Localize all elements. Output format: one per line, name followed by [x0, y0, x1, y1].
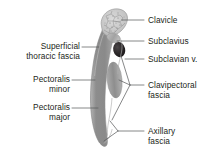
- label-line-2: fascia: [148, 90, 197, 100]
- label-line-2: thoracic fascia: [0, 51, 80, 61]
- label-line-2: fascia: [148, 136, 175, 146]
- label-line-1: Pectoralis: [0, 102, 70, 112]
- label-axillary-fascia: Axillary fascia: [148, 126, 175, 146]
- label-pectoralis-minor: Pectoralis minor: [0, 74, 70, 94]
- label-superficial-thoracic-fascia: Superficial thoracic fascia: [0, 41, 80, 61]
- label-line-1: Superficial: [0, 41, 80, 51]
- label-line-1: Clavipectoral: [148, 80, 197, 90]
- clavicle-bone: [101, 9, 127, 36]
- label-line-2: minor: [0, 84, 70, 94]
- subclavian-vein: [112, 41, 127, 59]
- leader-axillary-fascia-fork-upper: [110, 121, 118, 131]
- label-line-1: Clavicle: [148, 15, 177, 25]
- label-subclavius: Subclavius: [148, 36, 189, 46]
- label-subclavian-vein: Subclavian v.: [148, 54, 197, 64]
- label-clavicle: Clavicle: [148, 15, 177, 25]
- label-line-1: Axillary: [148, 126, 175, 136]
- anatomical-figure: Superficial thoracic fascia Pectoralis m…: [0, 0, 214, 160]
- label-clavipectoral-fascia: Clavipectoral fascia: [148, 80, 197, 100]
- leader-clavipectoral-fascia-fork-upper: [121, 56, 130, 85]
- label-pectoralis-major: Pectoralis major: [0, 102, 70, 122]
- pectoralis-minor-muscle: [106, 61, 124, 98]
- label-line-1: Pectoralis: [0, 74, 70, 84]
- label-line-1: Subclavius: [148, 36, 189, 46]
- label-line-1: Subclavian v.: [148, 54, 197, 64]
- label-line-2: major: [0, 112, 70, 122]
